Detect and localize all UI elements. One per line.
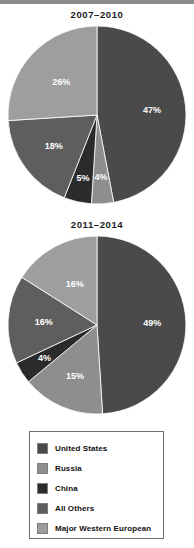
pie-slice — [97, 236, 186, 414]
top-edge-band — [0, 0, 194, 4]
series-legend: United States Russia China All Others Ma… — [29, 431, 164, 539]
pie-slice-label: 49% — [143, 318, 161, 328]
pie-slice-label: 4% — [38, 353, 51, 363]
pie-slice-label: 18% — [45, 141, 63, 151]
legend-swatch-icon — [37, 483, 48, 494]
pie-chart-figure: 2007–2010 47%4%5%18%26% 2011–2014 49%15%… — [0, 0, 194, 548]
legend-label: Russia — [55, 464, 82, 473]
chart-title-2: 2011–2014 — [0, 218, 194, 232]
legend-swatch-icon — [37, 523, 48, 534]
pie-slice-label: 4% — [94, 172, 107, 182]
pie-slice — [8, 26, 97, 121]
legend-swatch-icon — [37, 443, 48, 454]
pie-chart-2007-2010: 2007–2010 47%4%5%18%26% — [0, 8, 194, 208]
legend-item-china: China — [30, 478, 163, 498]
legend-item-major-western-european: Major Western European — [30, 518, 163, 538]
pie-slice-label: 15% — [66, 371, 84, 381]
legend-swatch-icon — [37, 503, 48, 514]
pie-slice-label: 47% — [143, 105, 161, 115]
legend-item-all-others: All Others — [30, 498, 163, 518]
chart-title-1: 2007–2010 — [0, 8, 194, 22]
legend-item-russia: Russia — [30, 458, 163, 478]
pie-slice-label: 16% — [35, 317, 53, 327]
pie-graphic-1: 47%4%5%18%26% — [4, 22, 190, 208]
pie-slice-label: 5% — [76, 173, 89, 183]
pie-canvas-1: 47%4%5%18%26% — [0, 22, 194, 208]
legend-label: China — [55, 484, 78, 493]
pie-graphic-2: 49%15%4%16%16% — [4, 232, 190, 418]
legend-list: United States Russia China All Others Ma… — [30, 432, 163, 538]
legend-label: All Others — [55, 504, 94, 513]
legend-label: Major Western European — [55, 524, 151, 533]
pie-canvas-2: 49%15%4%16%16% — [0, 232, 194, 418]
legend-item-united-states: United States — [30, 438, 163, 458]
pie-slice-label: 26% — [52, 77, 70, 87]
legend-label: United States — [55, 444, 107, 453]
pie-chart-2011-2014: 2011–2014 49%15%4%16%16% — [0, 218, 194, 418]
pie-slice-label: 16% — [66, 279, 84, 289]
pie-slice — [97, 26, 186, 202]
legend-swatch-icon — [37, 463, 48, 474]
